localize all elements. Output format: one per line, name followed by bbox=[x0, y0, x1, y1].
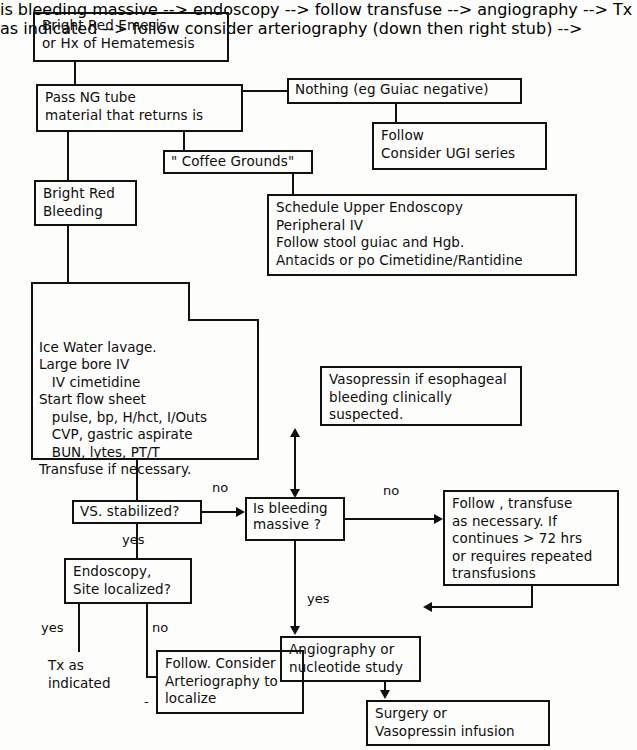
node-coffee-grounds: " Coffee Grounds" bbox=[163, 150, 313, 174]
edge-ngtube-to-brightred bbox=[67, 132, 69, 180]
edge-resuscitation-to-vsstabilized bbox=[136, 460, 138, 500]
text-tx-as-indicated: Tx as indicated bbox=[48, 657, 111, 692]
node-pass-ng-tube: Pass NG tube material that returns is bbox=[36, 84, 243, 132]
resuscitation-orders-text: Ice Water lavage. Large bore IV IV cimet… bbox=[31, 335, 259, 482]
node-schedule-upper-endoscopy: Schedule Upper Endoscopy Peripheral IV F… bbox=[267, 194, 577, 276]
edge-brightred-to-resuscitation bbox=[67, 226, 69, 282]
text-dash-mark: - bbox=[144, 694, 149, 709]
edge-followtransfuse-down bbox=[531, 586, 533, 608]
edge-label-endoscopy-no: no bbox=[152, 621, 168, 635]
node-surgery-vasopressin-infusion: Surgery or Vasopressin infusion bbox=[366, 700, 550, 746]
edge-followtransfuse-to-angiography bbox=[432, 606, 533, 608]
edge-massive-to-angiography bbox=[294, 541, 296, 627]
edge-massive-to-followtransfuse bbox=[345, 518, 435, 520]
edge-label-endoscopy-yes: yes bbox=[41, 621, 63, 635]
arrowhead-angiography-to-surgery bbox=[380, 690, 390, 699]
edge-coffeegrounds-to-endoscopy bbox=[292, 174, 294, 194]
edge-massive-to-vasopressin bbox=[294, 435, 296, 493]
arrowhead-massive-to-angiography bbox=[290, 626, 300, 635]
arrowhead-vsstabilized-to-massive bbox=[236, 507, 245, 517]
node-follow-consider-ugi-series: Follow Consider UGI series bbox=[372, 122, 547, 170]
edge-endoscopy-to-arteriography-v bbox=[146, 604, 148, 678]
edge-ngtube-to-coffeegrounds bbox=[183, 132, 185, 150]
arrowhead-massive-to-followtransfuse bbox=[434, 514, 443, 524]
node-vs-stabilized: VS. stabilized? bbox=[72, 500, 202, 524]
arrowhead-down-massive bbox=[290, 489, 300, 498]
edge-nothing-to-followugi bbox=[395, 104, 397, 122]
edge-label-vs-yes: yes bbox=[122, 533, 144, 547]
node-bright-red-emesis: Bright Red Emesis or Hx of Hematemesis bbox=[33, 12, 229, 62]
node-resuscitation-orders: Ice Water lavage. Large bore IV IV cimet… bbox=[31, 282, 259, 460]
node-is-bleeding-massive: Is bleeding massive ? bbox=[245, 497, 345, 541]
node-vasopressin-if-esophageal: Vasopressin if esophageal bleeding clini… bbox=[320, 366, 522, 426]
edge-vsstabilized-to-endoscopy bbox=[136, 524, 138, 558]
flowchart-canvas: Bright Red Emesis or Hx of Hematemesis P… bbox=[0, 0, 637, 750]
arrowhead-followtransfuse-to-angiography bbox=[423, 602, 432, 612]
node-nothing-guiac-negative: Nothing (eg Guiac negative) bbox=[287, 78, 522, 104]
node-endoscopy-site-localized: Endoscopy, Site localized? bbox=[64, 558, 192, 604]
node-follow-consider-arteriography: Follow. Consider Arteriography to locali… bbox=[156, 650, 304, 714]
edge-vsstabilized-to-massive bbox=[202, 511, 237, 513]
edge-endoscopy-to-arteriography-h bbox=[146, 676, 158, 678]
edge-label-massive-no: no bbox=[383, 484, 399, 498]
node-bright-red-bleeding: Bright Red Bleeding bbox=[34, 180, 137, 226]
edge-label-massive-yes: yes bbox=[307, 592, 329, 606]
arrowhead-up-vasopressin bbox=[290, 428, 300, 437]
node-follow-transfuse: Follow , transfuse as necessary. If cont… bbox=[443, 490, 619, 586]
edge-emesis-to-ngtube bbox=[74, 62, 76, 84]
edge-ngtube-to-nothing bbox=[243, 90, 288, 92]
edge-endoscopy-to-tx bbox=[78, 604, 80, 652]
edge-label-vs-no: no bbox=[212, 481, 228, 495]
